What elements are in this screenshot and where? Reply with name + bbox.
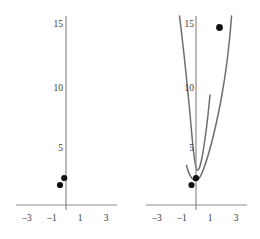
x-tick-label: –3	[151, 213, 162, 223]
axes-left	[16, 16, 117, 210]
plot-panel-left: –3 –1 1 3 5 10 15	[0, 0, 130, 239]
y-tick-label: 10	[54, 83, 64, 93]
y-tick-labels-right: 5 10 15	[185, 19, 195, 153]
y-tick-labels-left: 5 10 15	[54, 19, 64, 153]
x-tick-label: 3	[234, 213, 239, 223]
y-tick-label: 15	[185, 19, 195, 29]
data-point	[193, 175, 199, 181]
x-tick-label: –1	[176, 213, 187, 223]
data-point	[61, 175, 67, 181]
y-tick-label: 10	[185, 83, 195, 93]
data-point	[216, 24, 223, 31]
x-tick-labels-left: –3 –1 1 3	[21, 213, 108, 223]
plot-right-svg: –3 –1 1 3 5 10 15	[130, 0, 260, 239]
plot-left-svg: –3 –1 1 3 5 10 15	[0, 0, 130, 239]
x-tick-label: –1	[46, 213, 57, 223]
plot-panel-right: –3 –1 1 3 5 10 15	[130, 0, 260, 239]
data-point	[57, 182, 63, 188]
y-tick-label: 15	[54, 19, 64, 29]
y-tick-label: 5	[58, 143, 63, 153]
x-tick-label: 1	[208, 213, 213, 223]
x-tick-label: 1	[78, 213, 83, 223]
curves-right	[180, 16, 232, 181]
x-tick-labels-right: –3 –1 1 3	[151, 213, 238, 223]
figure-two-plots: –3 –1 1 3 5 10 15	[0, 0, 260, 239]
y-tick-label: 5	[189, 143, 194, 153]
data-point	[188, 182, 194, 188]
x-tick-label: –3	[21, 213, 32, 223]
x-tick-label: 3	[104, 213, 109, 223]
curve-a-path	[180, 16, 211, 170]
